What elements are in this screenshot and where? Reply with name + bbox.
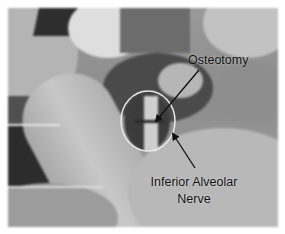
nerve-label-line1: Inferior Alveolar [150,175,238,190]
highlight-circle [121,91,175,151]
nerve-arrow [173,134,195,168]
annotation-overlay [0,0,285,234]
nerve-label-line2: Nerve [150,192,238,207]
osteotomy-label: Osteotomy [188,53,248,68]
